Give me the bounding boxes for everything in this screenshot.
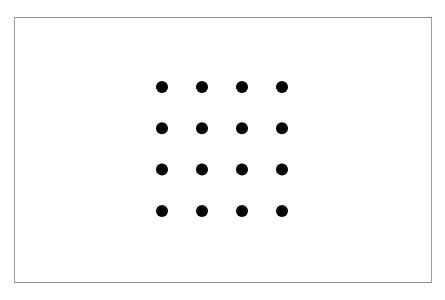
dot-r4-c3 bbox=[236, 205, 248, 217]
dot-r4-c1 bbox=[156, 205, 168, 217]
dot-r1-c3 bbox=[236, 81, 248, 93]
dot-r2-c4 bbox=[276, 122, 288, 134]
dot-r3-c2 bbox=[196, 164, 208, 176]
dot-grid bbox=[0, 0, 445, 300]
dot-r4-c2 bbox=[196, 205, 208, 217]
dot-r2-c3 bbox=[236, 122, 248, 134]
dot-r1-c1 bbox=[156, 81, 168, 93]
dot-r1-c4 bbox=[276, 81, 288, 93]
dot-r4-c4 bbox=[276, 205, 288, 217]
dot-r3-c4 bbox=[276, 164, 288, 176]
dot-r1-c2 bbox=[196, 81, 208, 93]
dot-r2-c1 bbox=[156, 122, 168, 134]
dot-r3-c3 bbox=[236, 164, 248, 176]
dot-r3-c1 bbox=[156, 164, 168, 176]
dot-r2-c2 bbox=[196, 122, 208, 134]
